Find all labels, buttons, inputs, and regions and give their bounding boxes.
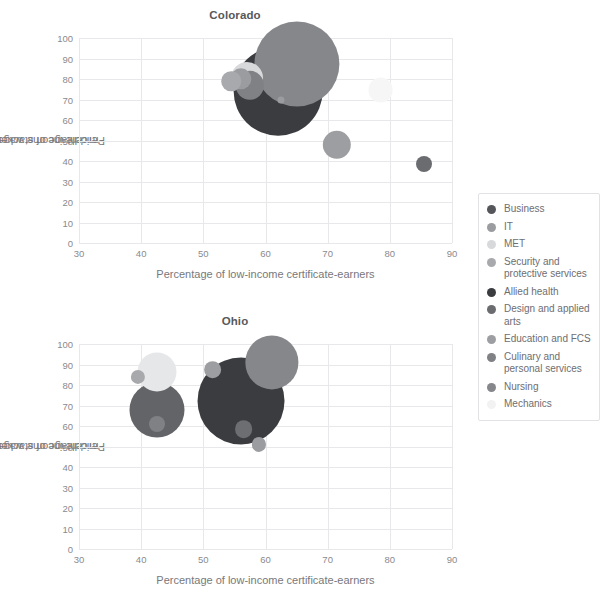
gridline-vertical [452,38,453,243]
legend: BusinessITMETSecurity and protective ser… [478,193,600,421]
gridline-vertical [390,344,391,549]
bubble-ohio-nursing [245,336,298,389]
y-axis-tick-label: 10 [62,217,73,228]
bubble-colorado-nursing [254,21,339,106]
y-axis-tick-label: 40 [62,462,73,473]
x-axis-tick-label: 60 [260,248,271,259]
gridline-vertical [79,344,80,549]
y-axis-tick-label: 30 [62,482,73,493]
x-axis-tick-label: 90 [447,248,458,259]
y-axis-tick-label: 30 [62,176,73,187]
x-axis-tick-label: 40 [136,248,147,259]
x-axis-tick-label: 70 [322,554,333,565]
y-axis-tick-label: 80 [62,74,73,85]
gridline-vertical [452,344,453,549]
gridline-horizontal [79,243,452,244]
bubble-colorado-design-and-applied-arts [416,156,432,172]
y-axis-tick-label: 90 [62,359,73,370]
legend-item-design-and-applied-arts[interactable]: Design and applied arts [487,303,593,328]
legend-item-allied-health[interactable]: Allied health [487,286,593,299]
legend-item-label: Design and applied arts [504,303,593,328]
bubble-ohio-business [235,420,253,438]
legend-swatch-icon [487,305,496,314]
x-axis-tick-label: 90 [447,554,458,565]
legend-item-met[interactable]: MET [487,238,593,251]
legend-swatch-icon [487,353,496,362]
legend-item-label: Education and FCS [504,333,591,346]
bubble-ohio-culinary-and-personal-services [149,416,165,432]
gridline-vertical [79,38,80,243]
gridline-vertical [328,344,329,549]
x-axis-title-colorado: Percentage of low-income certificate-ear… [79,268,452,280]
y-axis-tick-label: 80 [62,380,73,391]
x-axis-tick-label: 30 [74,554,85,565]
y-axis-tick-label: 0 [68,544,73,555]
plot-area-ohio: 010203040506070809010030405060708090 [79,344,452,549]
bubble-colorado-security-and-protective-services [222,71,242,91]
y-axis-tick-label: 20 [62,197,73,208]
legend-swatch-icon [487,205,496,214]
gridline-vertical [203,38,204,243]
y-axis-tick-label: 50 [62,135,73,146]
legend-item-education-and-fcs[interactable]: Education and FCS [487,333,593,346]
legend-item-label: Security and protective services [504,256,593,281]
bubble-ohio-education-and-fcs [204,361,222,379]
y-axis-tick-label: 50 [62,441,73,452]
chart-page: Colorado Percentage of stackers who earn… [0,0,608,602]
legend-item-label: Business [504,203,545,216]
y-axis-tick-label: 90 [62,53,73,64]
y-axis-tick-label: 100 [57,339,73,350]
gridline-vertical [390,38,391,243]
legend-item-culinary-and-personal-services[interactable]: Culinary and personal services [487,351,593,376]
legend-swatch-icon [487,223,496,232]
y-axis-tick-label: 20 [62,503,73,514]
x-axis-tick-label: 50 [198,248,209,259]
legend-item-label: Allied health [504,286,558,299]
legend-swatch-icon [487,383,496,392]
legend-item-label: MET [504,238,525,251]
y-axis-tick-label: 0 [68,238,73,249]
y-axis-tick-label: 40 [62,156,73,167]
y-axis-title-colorado: Percentage of stackers who earn a middle… [4,38,64,243]
bubble-colorado-education-and-fcs [323,130,351,158]
legend-swatch-icon [487,288,496,297]
legend-item-label: Nursing [504,381,538,394]
x-axis-tick-label: 80 [385,554,396,565]
x-axis-tick-label: 70 [322,248,333,259]
y-axis-tick-label: 60 [62,421,73,432]
panel-title-ohio: Ohio [0,315,470,327]
legend-item-label: Culinary and personal services [504,351,593,376]
y-axis-tick-label: 70 [62,400,73,411]
panel-title-colorado: Colorado [0,9,470,21]
y-axis-tick-label: 70 [62,94,73,105]
legend-item-security-and-protective-services[interactable]: Security and protective services [487,256,593,281]
legend-item-nursing[interactable]: Nursing [487,381,593,394]
y-axis-tick-label: 60 [62,115,73,126]
bubble-colorado-mechanics [368,78,393,103]
legend-swatch-icon [487,240,496,249]
x-axis-tick-label: 40 [136,554,147,565]
x-axis-tick-label: 30 [74,248,85,259]
legend-swatch-icon [487,258,496,267]
x-axis-tick-label: 80 [385,248,396,259]
bubble-ohio-it [252,437,266,451]
plot-area-colorado: 010203040506070809010030405060708090 [79,38,452,243]
gridline-vertical [141,38,142,243]
y-axis-tick-label: 10 [62,523,73,534]
gridline-horizontal [79,549,452,550]
panel-ohio: Ohio Percentage of stackers who earn a m… [0,306,470,602]
gridline-vertical [203,344,204,549]
legend-item-mechanics[interactable]: Mechanics [487,398,593,411]
legend-item-it[interactable]: IT [487,221,593,234]
legend-item-label: IT [504,221,513,234]
legend-item-label: Mechanics [504,398,552,411]
x-axis-title-ohio: Percentage of low-income certificate-ear… [79,574,452,586]
y-axis-title-ohio: Percentage of stackers who earn a middle… [4,344,64,549]
legend-item-business[interactable]: Business [487,203,593,216]
y-axis-tick-label: 100 [57,33,73,44]
x-axis-tick-label: 60 [260,554,271,565]
legend-swatch-icon [487,400,496,409]
legend-swatch-icon [487,335,496,344]
panel-colorado: Colorado Percentage of stackers who earn… [0,0,470,300]
x-axis-tick-label: 50 [198,554,209,565]
